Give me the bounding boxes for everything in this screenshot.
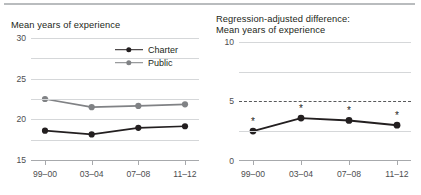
x-axis-tick-label: 99–00 <box>33 169 57 179</box>
chart-panel-left: Mean years of experience Charter Publ <box>0 0 210 195</box>
y-axis-tick-label: 30 <box>16 33 26 43</box>
y-axis-tick-label: 15 <box>16 155 26 165</box>
x-axis-tick-label: 07–08 <box>126 169 150 179</box>
x-axis-tick-label: 07–08 <box>337 169 361 179</box>
x-axis-tick-label: 03–04 <box>289 169 313 179</box>
panel-title-right: Regression-adjusted difference: Mean yea… <box>216 14 350 36</box>
legend-left: Charter Public <box>115 43 178 69</box>
y-axis-tick-label: 10 <box>224 37 234 47</box>
data-point-marker <box>346 117 353 124</box>
gridline: 5 <box>31 140 199 141</box>
y-axis-tick-label: 0 <box>229 156 234 166</box>
y-axis-tick-label: 25 <box>16 74 26 84</box>
gridline: −5 <box>239 131 411 132</box>
gridline: −10 <box>239 160 411 161</box>
data-point-marker <box>298 115 305 122</box>
significance-asterisk: * <box>395 113 399 119</box>
x-axis-tick-mark <box>92 160 93 165</box>
significance-asterisk: * <box>347 108 351 114</box>
legend-swatch-public <box>115 58 143 67</box>
series-line <box>45 126 185 134</box>
x-axis-tick-label: 11–12 <box>173 169 196 179</box>
data-point-marker <box>89 131 95 137</box>
significance-asterisk: * <box>299 106 303 112</box>
legend-item-charter: Charter <box>115 43 178 56</box>
legend-label-charter: Charter <box>148 45 178 55</box>
data-point-marker <box>89 104 95 110</box>
panel-title-left: Mean years of experience <box>11 20 120 31</box>
series-line <box>253 118 397 131</box>
data-point-marker <box>135 103 141 109</box>
series-line <box>45 99 185 107</box>
x-axis-tick-mark <box>185 160 186 165</box>
gridline: 15 <box>31 99 199 100</box>
data-point-marker <box>394 122 401 129</box>
gridline: 30 <box>31 38 199 39</box>
figure-container: Mean years of experience Charter Publ <box>0 0 421 195</box>
x-axis-tick-mark <box>138 160 139 165</box>
x-axis-tick-label: 03–04 <box>80 169 104 179</box>
plot-area-right: −10−5051099–0003–0407–0811–12**** <box>239 42 411 160</box>
data-point-marker <box>135 125 141 131</box>
data-point-marker <box>182 123 188 129</box>
data-point-marker <box>42 128 48 134</box>
y-axis-tick-label: 5 <box>229 96 234 106</box>
legend-swatch-charter <box>115 45 143 54</box>
gridline: 25 <box>31 58 199 59</box>
y-axis-tick-label: 20 <box>16 114 26 124</box>
x-axis-tick-label: 99–00 <box>241 169 265 179</box>
gridline: 0 <box>31 160 199 161</box>
x-axis-tick-label: 11–12 <box>385 169 408 179</box>
x-axis-tick-mark <box>301 160 302 165</box>
gridline: 20 <box>31 79 199 80</box>
data-point-marker <box>182 101 188 107</box>
significance-asterisk: * <box>251 119 255 125</box>
gridline: 0 <box>239 101 411 102</box>
gridline: 5 <box>239 72 411 73</box>
x-axis-tick-mark <box>45 160 46 165</box>
x-axis-tick-mark <box>253 160 254 165</box>
gridline: 10 <box>31 119 199 120</box>
plot-area-left: Charter Public 05101520253099–0003–0407–… <box>31 38 199 160</box>
x-axis-tick-mark <box>397 160 398 165</box>
chart-panel-right: Regression-adjusted difference: Mean yea… <box>211 0 421 195</box>
gridline: 10 <box>239 42 411 43</box>
x-axis-tick-mark <box>349 160 350 165</box>
